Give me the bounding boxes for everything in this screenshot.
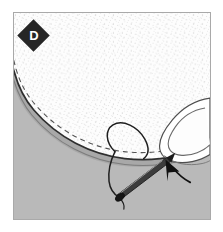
step-badge-label: D [19,21,49,51]
illustration-figure: Hand-sewing an opening closed with a sli… [0,0,223,232]
step-badge: D [19,21,49,51]
